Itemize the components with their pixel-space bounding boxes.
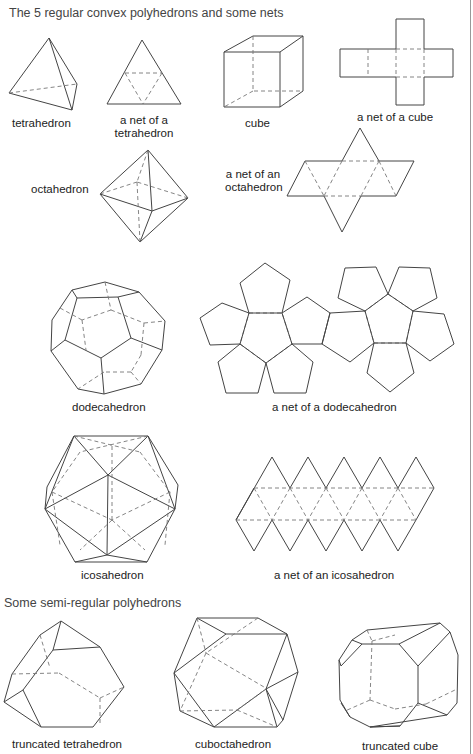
icosahedron-net-figure [236,457,434,551]
label-cube-net: a net of a cube [357,111,433,124]
label-octahedron: octahedron [31,183,89,196]
label-octahedron-net: a net of an octahedron [225,168,281,194]
label-cube: cube [245,117,270,130]
dodecahedron-net-figure [200,263,454,393]
label-dodecahedron: dodecahedron [72,401,146,414]
tetrahedron-net-figure [107,40,181,104]
cuboctahedron-figure [174,618,298,727]
label-tetrahedron-net: a net of a tetrahedron [114,114,174,140]
label-cuboctahedron: cuboctahedron [195,738,271,751]
label-tetrahedron-net-line2: tetrahedron [114,127,174,140]
dodecahedron-figure [51,282,165,394]
page-edge-divider [470,0,471,754]
cube-net-figure [340,19,453,105]
semi-regular-section-title: Some semi-regular polyhedrons [4,596,181,610]
label-tetrahedron: tetrahedron [12,117,71,130]
truncated-cube-figure [339,623,458,727]
icosahedron-figure [45,436,178,562]
label-tetrahedron-net-line1: a net of a [114,114,174,127]
label-truncated-tetrahedron: truncated tetrahedron [12,738,122,751]
label-truncated-cube: truncated cube [362,740,438,753]
label-octahedron-net-line2: octahedron [225,181,281,194]
octahedron-figure [100,150,188,242]
label-octahedron-net-line1: a net of an [225,168,281,181]
label-icosahedron: icosahedron [81,569,144,582]
tetrahedron-figure [9,38,77,110]
label-icosahedron-net: a net of an icosahedron [274,569,394,582]
truncated-tetrahedron-figure [4,621,124,727]
label-dodecahedron-net: a net of a dodecahedron [272,401,397,414]
octahedron-net-figure [287,128,414,232]
cube-figure [224,36,303,107]
